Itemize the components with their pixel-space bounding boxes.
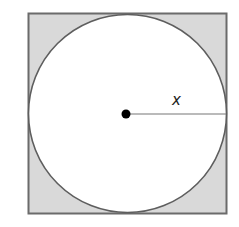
radius-label: x: [171, 91, 181, 109]
center-point: [122, 110, 131, 119]
inscribed-circle-diagram: x: [0, 0, 239, 227]
